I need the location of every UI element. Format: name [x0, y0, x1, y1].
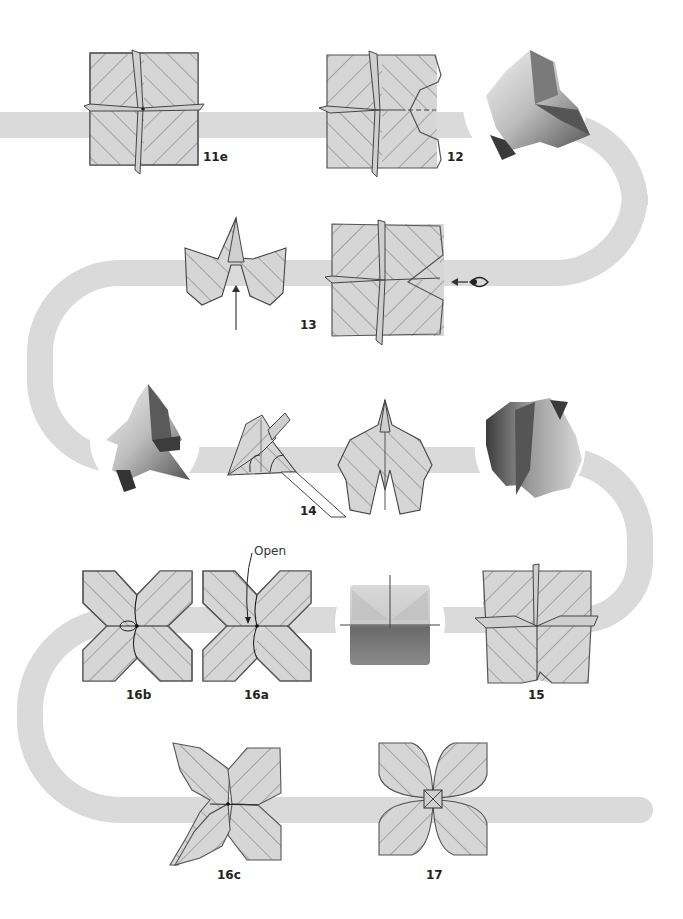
- photo-model-center: [335, 567, 445, 677]
- step-label-13: 13: [300, 318, 317, 332]
- diagram-step-11e: [84, 50, 204, 174]
- diagram-step-15: [475, 564, 598, 683]
- step-label-17: 17: [426, 868, 443, 882]
- step-label-16b: 16b: [126, 688, 151, 702]
- photo-model-left: [90, 384, 200, 495]
- step-label-12: 12: [447, 150, 464, 164]
- photo-model-right: [475, 395, 585, 505]
- step-label-15: 15: [528, 688, 545, 702]
- diagram-step-14-b: [338, 400, 432, 514]
- photo-model-top-right: [463, 43, 590, 167]
- diagram-step-13-flat: [325, 220, 488, 345]
- arrow-up-icon: [232, 285, 240, 292]
- step-label-16c: 16c: [217, 868, 241, 882]
- diagram-step-12: [319, 51, 441, 177]
- step-label-16a: 16a: [244, 688, 269, 702]
- diagram-step-16a: [203, 553, 311, 681]
- step-label-14: 14: [300, 504, 317, 518]
- step-label-11e: 11e: [203, 150, 228, 164]
- annotation-open: Open: [254, 544, 286, 558]
